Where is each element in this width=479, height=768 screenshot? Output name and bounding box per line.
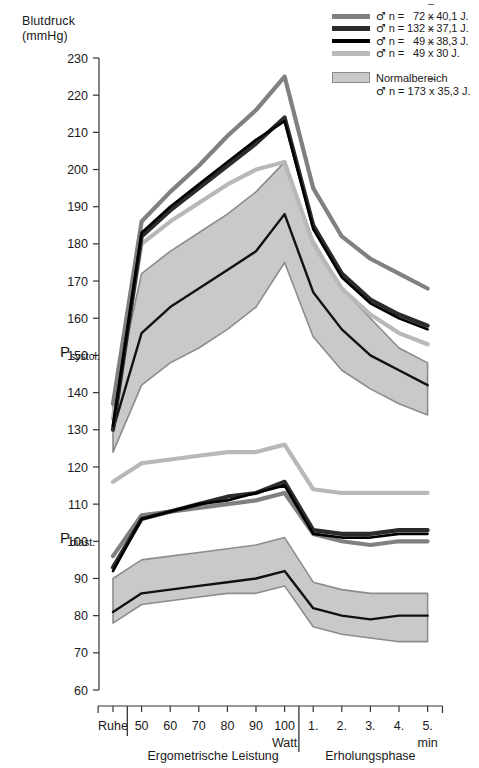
x-tick-label-11: 5. [422, 719, 432, 733]
x-tick-label-7: 1. [308, 719, 318, 733]
x-tick-label-10: 4. [394, 719, 404, 733]
y-tick-label-110: 110 [68, 498, 88, 512]
x-group-label-0: Ergometrische Leistung [147, 749, 278, 763]
x-tick-label-5: 90 [249, 719, 263, 733]
x-unit-watt: Watt [272, 736, 298, 750]
svg-text:P: P [60, 529, 70, 546]
y-tick-label-70: 70 [74, 646, 88, 660]
x-group-label-1: Erholungsphase [325, 749, 415, 763]
y-tick-label-230: 230 [67, 52, 88, 66]
x-tick-label-2: 60 [163, 719, 177, 733]
y-tick-label-200: 200 [67, 163, 88, 177]
normal-range-band-1 [113, 538, 428, 642]
y-tick-label-120: 120 [67, 461, 88, 475]
svg-text:diast.: diast. [70, 536, 95, 548]
y-tick-label-80: 80 [74, 609, 88, 623]
x-unit-min: min [418, 736, 438, 750]
x-tick-label-4: 80 [220, 719, 234, 733]
y-tick-label-210: 210 [67, 126, 88, 140]
y-tick-label-160: 160 [67, 312, 88, 326]
svg-text:systol.: systol. [70, 350, 100, 362]
p-diastolic-label: Pdiast. [60, 529, 95, 548]
x-tick-label-6: 100 [274, 719, 295, 733]
x-tick-label-8: 2. [337, 719, 347, 733]
x-tick-label-9: 3. [365, 719, 375, 733]
y-tick-label-130: 130 [67, 423, 88, 437]
p-systolic-label: Psystol. [60, 343, 100, 362]
x-tick-label-3: 70 [192, 719, 206, 733]
y-tick-label-140: 140 [67, 386, 88, 400]
x-tick-label-0: Ruhe [98, 719, 128, 733]
y-tick-label-90: 90 [74, 572, 88, 586]
y-tick-label-170: 170 [67, 275, 88, 289]
plot-area: 2302202102001901801701601501401301201101… [0, 0, 479, 768]
y-tick-label-180: 180 [67, 237, 88, 251]
y-tick-label-220: 220 [67, 89, 88, 103]
y-tick-label-60: 60 [74, 684, 88, 698]
svg-text:P: P [60, 343, 70, 360]
x-tick-label-1: 50 [135, 719, 149, 733]
y-tick-label-190: 190 [67, 200, 88, 214]
chart-root: Blutdruck (mmHg) ♂ n = 72 x 40,1 J.♂ n =… [0, 0, 479, 768]
